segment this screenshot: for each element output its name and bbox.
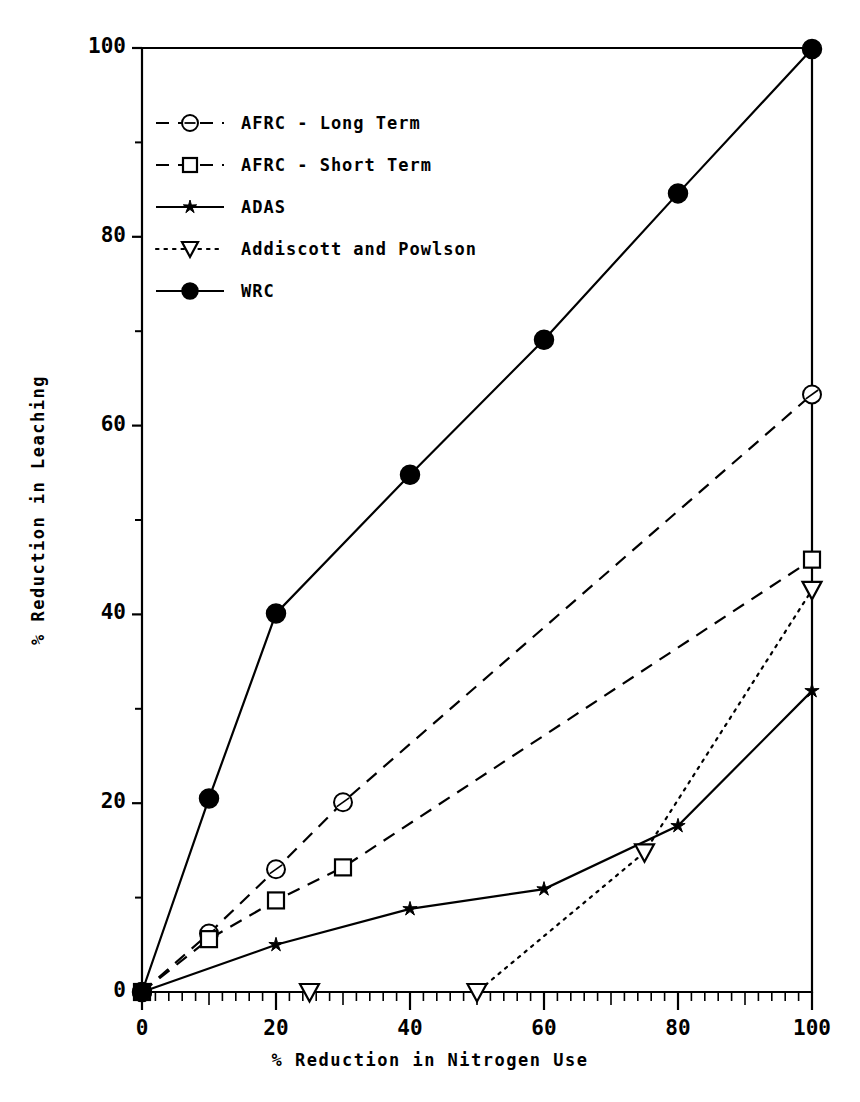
series-4-point-6-marker xyxy=(803,39,822,58)
x-axis-label: % Reduction in Nitrogen Use xyxy=(0,1050,860,1070)
series-line-2 xyxy=(142,691,812,992)
y-axis-label: % Reduction in Leaching xyxy=(28,290,48,730)
series-4-point-4-marker xyxy=(535,330,554,349)
series-line-3 xyxy=(310,590,813,992)
legend-item-1: AFRC - Short Term xyxy=(152,150,432,180)
y-tick-label: 20 xyxy=(66,789,126,813)
series-line-4 xyxy=(142,49,812,992)
x-tick-label: 60 xyxy=(509,1016,579,1040)
series-2-point-3-marker xyxy=(537,882,551,896)
y-tick-label: 0 xyxy=(66,978,126,1002)
y-tick-label: 100 xyxy=(66,34,126,58)
x-tick-label: 20 xyxy=(241,1016,311,1040)
series-4-point-1-marker xyxy=(200,789,219,808)
chart-figure: % Reduction in Leaching % Reduction in N… xyxy=(0,0,860,1102)
series-1-point-2-marker xyxy=(268,892,284,908)
legend-label: ADAS xyxy=(241,197,286,217)
legend-sample-circle-open-slash-icon xyxy=(152,110,228,136)
series-2-point-2-marker xyxy=(403,901,417,915)
legend-sample-triangle-down-open-icon xyxy=(152,236,228,262)
legend-label: WRC xyxy=(241,281,275,301)
x-tick-label: 80 xyxy=(643,1016,713,1040)
series-line-1 xyxy=(142,560,812,992)
y-tick-label: 80 xyxy=(66,223,126,247)
legend-item-2: ADAS xyxy=(152,192,286,222)
legend-item-3: Addiscott and Powlson xyxy=(152,234,477,264)
legend-label: AFRC - Long Term xyxy=(241,113,421,133)
x-tick-label: 40 xyxy=(375,1016,445,1040)
legend-label: Addiscott and Powlson xyxy=(241,239,477,259)
series-4-point-5-marker xyxy=(669,184,688,203)
series-4-point-2-marker xyxy=(267,604,286,623)
plot-frame xyxy=(142,48,812,992)
legend-item-4: WRC xyxy=(152,276,275,306)
x-tick-label: 0 xyxy=(107,1016,177,1040)
legend-sample-star-icon xyxy=(152,194,228,220)
series-3-point-3-marker xyxy=(803,582,822,600)
series-4-point-3-marker xyxy=(401,465,420,484)
y-tick-label: 40 xyxy=(66,600,126,624)
series-1-point-4-marker xyxy=(804,552,820,568)
series-4-point-0-marker xyxy=(133,983,152,1002)
y-tick-label: 60 xyxy=(66,412,126,436)
legend-sample-square-open-icon xyxy=(152,152,228,178)
series-line-0 xyxy=(142,394,812,992)
legend-label: AFRC - Short Term xyxy=(241,155,432,175)
legend-sample-circle-filled-icon xyxy=(152,278,228,304)
series-1-point-3-marker xyxy=(335,859,351,875)
x-tick-label: 100 xyxy=(777,1016,847,1040)
series-1-point-1-marker xyxy=(201,931,217,947)
series-2-point-1-marker xyxy=(269,937,283,951)
legend-item-0: AFRC - Long Term xyxy=(152,108,421,138)
